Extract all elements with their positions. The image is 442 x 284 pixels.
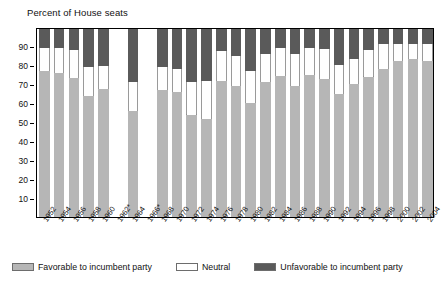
- bar-segment-unfavorable: [319, 29, 330, 49]
- bar-column[interactable]: [245, 29, 256, 217]
- bar-column[interactable]: [83, 29, 94, 217]
- y-tick-mark: [30, 123, 34, 124]
- bar-segment-neutral: [319, 49, 330, 79]
- bar-segment-favorable: [275, 76, 286, 217]
- bar-segment-favorable: [231, 86, 242, 217]
- y-tick-label: 30: [19, 157, 28, 166]
- plot-frame: [36, 28, 434, 218]
- bar-column[interactable]: [334, 29, 345, 217]
- bar-segment-favorable: [39, 71, 50, 217]
- legend-item[interactable]: Neutral: [176, 262, 230, 272]
- y-tick-mark: [30, 85, 34, 86]
- bar-segment-neutral: [157, 67, 168, 90]
- bar-segment-favorable: [172, 92, 183, 217]
- bar-segment-unfavorable: [334, 29, 345, 65]
- chart-legend: Favorable to incumbent partyNeutralUnfav…: [12, 259, 432, 275]
- y-tick-mark: [30, 47, 34, 48]
- bar-segment-unfavorable: [290, 29, 301, 54]
- bar-segment-unfavorable: [260, 29, 271, 54]
- legend-item[interactable]: Favorable to incumbent party: [12, 262, 152, 272]
- bar-segment-unfavorable: [157, 29, 168, 67]
- bar-column[interactable]: [142, 29, 153, 217]
- y-axis: 908070605040302010: [0, 28, 34, 218]
- bar-segment-favorable: [128, 111, 139, 217]
- y-tick-mark: [30, 66, 34, 67]
- bar-segment-favorable: [201, 119, 212, 217]
- bar-segment-unfavorable: [349, 29, 360, 59]
- bar-column[interactable]: [260, 29, 271, 217]
- bar-segment-neutral: [128, 82, 139, 111]
- bar-column[interactable]: [349, 29, 360, 217]
- y-tick-label: 50: [19, 119, 28, 128]
- bar-segment-unfavorable: [378, 29, 389, 44]
- y-tick-label: 20: [19, 176, 28, 185]
- bar-column[interactable]: [186, 29, 197, 217]
- bar-column[interactable]: [393, 29, 404, 217]
- bar-column[interactable]: [408, 29, 419, 217]
- bar-segment-unfavorable: [83, 29, 94, 67]
- bar-segment-favorable: [98, 89, 109, 217]
- y-tick-label: 10: [19, 195, 28, 204]
- bar-segment-neutral: [304, 48, 315, 75]
- bar-column[interactable]: [201, 29, 212, 217]
- legend-swatch-favorable: [12, 263, 34, 271]
- y-tick-mark: [30, 180, 34, 181]
- legend-item[interactable]: Unfavorable to incumbent party: [254, 262, 402, 272]
- bar-segment-neutral: [98, 66, 109, 89]
- bar-segment-unfavorable: [363, 29, 374, 50]
- bar-segment-neutral: [54, 48, 65, 73]
- bar-segment-unfavorable: [245, 29, 256, 71]
- bar-column[interactable]: [290, 29, 301, 217]
- bar-column[interactable]: [422, 29, 433, 217]
- y-tick-label: 60: [19, 100, 28, 109]
- bar-column[interactable]: [172, 29, 183, 217]
- bar-segment-unfavorable: [275, 29, 286, 48]
- y-tick-mark: [30, 199, 34, 200]
- bar-column[interactable]: [275, 29, 286, 217]
- bar-column[interactable]: [39, 29, 50, 217]
- bar-column[interactable]: [319, 29, 330, 217]
- bar-column[interactable]: [231, 29, 242, 217]
- bar-segment-unfavorable: [186, 29, 197, 82]
- bar-column[interactable]: [54, 29, 65, 217]
- bar-column[interactable]: [363, 29, 374, 217]
- bar-segment-neutral: [69, 50, 80, 79]
- chart-title: Percent of House seats: [27, 7, 128, 18]
- bar-segment-unfavorable: [408, 29, 419, 44]
- bar-segment-favorable: [260, 82, 271, 217]
- bar-segment-unfavorable: [69, 29, 80, 50]
- bar-segment-unfavorable: [216, 29, 227, 51]
- bar-segment-neutral: [363, 50, 374, 77]
- bar-column[interactable]: [69, 29, 80, 217]
- legend-label: Neutral: [202, 262, 230, 272]
- bar-column[interactable]: [128, 29, 139, 217]
- bar-segment-unfavorable: [54, 29, 65, 48]
- bar-segment-unfavorable: [422, 29, 433, 44]
- bar-segment-favorable: [69, 78, 80, 217]
- y-tick-mark: [30, 142, 34, 143]
- bar-column[interactable]: [98, 29, 109, 217]
- bar-segment-favorable: [54, 73, 65, 217]
- legend-label: Favorable to incumbent party: [38, 262, 152, 272]
- plot-area: [37, 29, 433, 217]
- bar-column[interactable]: [378, 29, 389, 217]
- bar-segment-favorable: [349, 84, 360, 217]
- bar-segment-unfavorable: [172, 29, 183, 69]
- bar-column[interactable]: [216, 29, 227, 217]
- bar-segment-neutral: [393, 44, 404, 61]
- bar-segment-neutral: [231, 56, 242, 86]
- bar-column[interactable]: [304, 29, 315, 217]
- legend-swatch-unfavorable: [254, 263, 276, 271]
- bar-segment-unfavorable: [201, 29, 212, 81]
- y-tick-label: 90: [19, 43, 28, 52]
- bar-segment-neutral: [83, 67, 94, 96]
- bar-segment-favorable: [290, 86, 301, 217]
- bar-segment-favorable: [216, 81, 227, 217]
- bar-segment-favorable: [83, 96, 94, 218]
- bar-column[interactable]: [157, 29, 168, 217]
- bar-column[interactable]: [113, 29, 124, 217]
- bar-segment-favorable: [334, 94, 345, 217]
- bar-segment-unfavorable: [231, 29, 242, 56]
- bar-segment-neutral: [186, 82, 197, 114]
- y-tick-label: 40: [19, 138, 28, 147]
